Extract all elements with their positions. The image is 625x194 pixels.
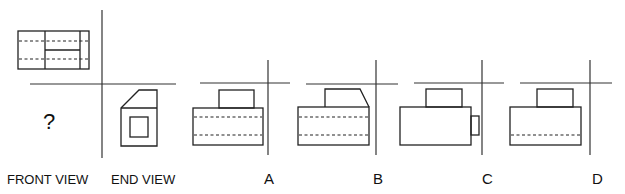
option-a-drawing[interactable]	[193, 60, 290, 155]
end-view-label: END VIEW	[111, 172, 175, 187]
option-c-label[interactable]: C	[482, 170, 493, 187]
option-b-label[interactable]: B	[373, 170, 383, 187]
front-view-label: FRONT VIEW	[7, 172, 88, 187]
diagram-canvas	[0, 0, 625, 194]
option-b-drawing[interactable]	[298, 60, 398, 155]
option-d-label[interactable]: D	[592, 170, 603, 187]
top-view	[18, 31, 89, 69]
option-a-label[interactable]: A	[264, 170, 274, 187]
question-mark: ?	[43, 109, 55, 135]
option-d-drawing[interactable]	[510, 60, 612, 155]
option-c-drawing[interactable]	[400, 60, 504, 155]
end-view	[121, 90, 157, 146]
projection-axes	[30, 10, 176, 158]
